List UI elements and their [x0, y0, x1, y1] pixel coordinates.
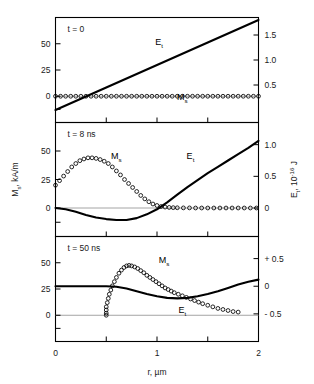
data-point	[119, 173, 123, 177]
x-tick-label: 2	[256, 348, 261, 358]
y-left-tick-label: 0	[46, 91, 51, 101]
y-left-tick-label: 0	[46, 203, 51, 213]
series-label: Ms	[111, 151, 122, 163]
data-point	[66, 170, 70, 174]
data-point	[105, 301, 109, 305]
data-point	[94, 157, 98, 161]
data-point	[102, 159, 106, 163]
data-point	[123, 178, 127, 182]
panel-time-annotation: t = 50 ns	[68, 243, 101, 253]
data-point	[193, 299, 197, 303]
data-point	[78, 159, 82, 163]
data-point	[62, 174, 66, 178]
x-tick-label: 1	[155, 348, 160, 358]
data-point	[131, 186, 135, 190]
series-curve-E-t	[56, 280, 259, 299]
series-label: Et	[155, 37, 163, 49]
data-point	[167, 206, 171, 210]
y-right-tick-label: 1.0	[265, 55, 277, 65]
panel-2: 502501.00.50t = 8 nsMsEt	[41, 123, 277, 237]
data-point	[98, 158, 102, 162]
series-points-M-s	[54, 156, 259, 210]
data-point	[106, 162, 110, 166]
y-right-tick-label: 1.0	[265, 140, 277, 150]
data-point	[226, 309, 230, 313]
multi-panel-plot: 502501.51.00.5t = 0EtMs502501.00.50t = 8…	[0, 0, 314, 384]
data-point	[151, 202, 155, 206]
data-point	[107, 292, 111, 296]
data-point	[86, 156, 90, 160]
panel-time-annotation: t = 0	[68, 24, 85, 34]
series-label: Ms	[177, 92, 188, 104]
data-point	[112, 280, 116, 284]
y-right-tick-label: + 0.5	[265, 254, 284, 264]
data-point	[70, 165, 74, 169]
y-right-tick-label: 0	[265, 203, 270, 213]
y-right-tick-label: 0.5	[265, 80, 277, 90]
series-label: Et	[179, 305, 187, 317]
data-point	[139, 194, 143, 198]
data-point	[110, 165, 114, 169]
y-right-tick-label: 1.5	[265, 30, 277, 40]
data-point	[143, 197, 147, 201]
data-point	[176, 292, 180, 296]
y-axis-left-title: Ms, kA/m	[10, 162, 22, 196]
y-right-tick-label: 0	[265, 281, 270, 291]
y-left-tick-label: 0	[46, 310, 51, 320]
data-point	[90, 156, 94, 160]
y-left-tick-label: 25	[41, 175, 51, 185]
data-point	[135, 190, 139, 194]
data-point	[127, 182, 131, 186]
y-left-tick-label: 50	[41, 39, 51, 49]
data-point	[211, 305, 215, 309]
data-point	[115, 169, 119, 173]
data-point	[106, 297, 110, 301]
series-label: Et	[187, 151, 195, 163]
y-right-tick-label: 0.5	[265, 171, 277, 181]
y-axis-right-title: Et, 10-16 J	[288, 161, 301, 198]
y-left-tick-label: 50	[41, 146, 51, 156]
data-point	[236, 310, 240, 314]
data-point	[172, 291, 176, 295]
data-point	[155, 204, 159, 208]
series-label: Ms	[159, 255, 170, 267]
data-point	[115, 276, 119, 280]
data-point	[147, 200, 151, 204]
panel-frame	[56, 123, 259, 237]
data-point	[231, 310, 235, 314]
x-axis-title: r, µm	[147, 367, 166, 377]
y-right-tick-label: - 0.5	[265, 309, 282, 319]
data-point	[201, 302, 205, 306]
data-point	[206, 303, 210, 307]
data-point	[221, 308, 225, 312]
data-point	[216, 307, 220, 311]
x-tick-label: 0	[53, 348, 58, 358]
y-left-tick-label: 25	[41, 284, 51, 294]
data-point	[82, 157, 86, 161]
y-left-tick-label: 50	[41, 258, 51, 268]
data-point	[109, 288, 113, 292]
panel-time-annotation: t = 8 ns	[68, 129, 96, 139]
panel-1: 502501.51.00.5t = 0EtMs	[41, 18, 277, 123]
y-left-tick-label: 25	[41, 65, 51, 75]
data-point	[197, 300, 201, 304]
data-point	[74, 162, 78, 166]
figure-container: 502501.51.00.5t = 0EtMs502501.00.50t = 8…	[0, 0, 314, 384]
panel-3: 50250+ 0.50- 0.5t = 50 nsMsEt	[41, 237, 284, 342]
